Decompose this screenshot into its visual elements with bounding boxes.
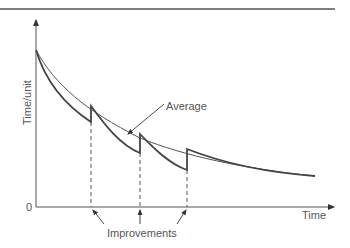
improvement-arrow-1 bbox=[93, 210, 104, 224]
average-pointer bbox=[128, 104, 164, 134]
actual-curve bbox=[36, 50, 315, 176]
origin-label: 0 bbox=[26, 201, 32, 213]
average-label: Average bbox=[166, 100, 207, 112]
improvement-arrow-3 bbox=[177, 210, 186, 224]
improvements-label: Improvements bbox=[107, 227, 177, 239]
x-axis-label: Time bbox=[302, 209, 326, 221]
y-axis-label: Time/unit bbox=[21, 80, 33, 125]
learning-curve-diagram: Average Improvements Time 0 Time/unit bbox=[0, 0, 350, 248]
